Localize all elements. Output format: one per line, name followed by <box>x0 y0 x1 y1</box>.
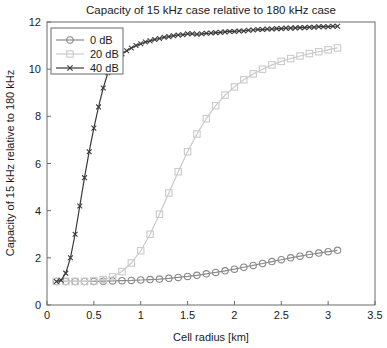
y-tick-label: 6 <box>35 158 41 170</box>
y-tick-label: 8 <box>35 110 41 122</box>
series-line <box>56 48 337 281</box>
x-tick-label: 1.5 <box>180 309 195 321</box>
x-axis-title: Cell radius [km] <box>173 331 249 343</box>
x-tick-label: 0 <box>44 309 50 321</box>
y-tick-label: 12 <box>29 16 41 28</box>
chart-figure: Capacity of 15 kHz case relative to 180 … <box>0 0 387 348</box>
x-tick-label: 1 <box>138 309 144 321</box>
x-tick-label: 2 <box>231 309 237 321</box>
y-tick-label: 4 <box>35 205 41 217</box>
legend-label: 40 dB <box>90 62 119 74</box>
legend-label: 20 dB <box>90 48 119 60</box>
y-axis-ticks: 024681012 <box>29 16 51 311</box>
x-tick-label: 3 <box>325 309 331 321</box>
x-tick-label: 3.5 <box>367 309 382 321</box>
chart-legend: 0 dB20 dB40 dB <box>51 28 123 74</box>
data-series <box>53 247 341 285</box>
data-point-marker <box>129 46 134 51</box>
y-tick-label: 2 <box>35 252 41 264</box>
series-line <box>56 250 337 281</box>
chart-title: Capacity of 15 kHz case relative to 180 … <box>86 4 336 16</box>
chart-canvas: Capacity of 15 kHz case relative to 180 … <box>0 0 387 348</box>
x-axis-ticks: 00.511.522.533.5 <box>44 301 383 321</box>
y-tick-label: 10 <box>29 63 41 75</box>
data-series <box>53 45 341 285</box>
legend-label: 0 dB <box>90 34 113 46</box>
data-point-marker <box>134 43 139 48</box>
x-tick-label: 0.5 <box>86 309 101 321</box>
data-point-marker <box>124 48 129 53</box>
y-tick-label: 0 <box>35 299 41 311</box>
x-tick-label: 2.5 <box>274 309 289 321</box>
y-axis-title: Capacity of 15 kHz relative to 180 kHz <box>4 70 16 256</box>
